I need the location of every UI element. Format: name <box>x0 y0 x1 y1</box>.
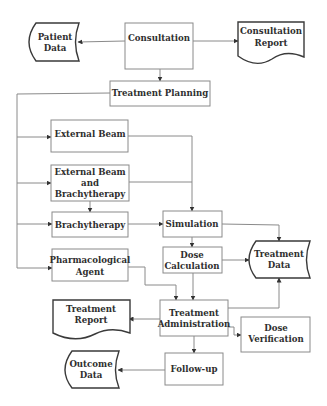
node-label: Agent <box>75 267 104 277</box>
node-label: Treatment <box>169 308 219 318</box>
node-patient-data: Patient Data <box>29 23 79 61</box>
node-label: Brachytherapy <box>55 220 127 230</box>
node-label: Consultation <box>128 33 191 43</box>
node-label: Treatment <box>254 249 304 259</box>
node-label: Administration <box>157 319 231 329</box>
node-pharmacological-agent: Pharmacological Agent <box>50 249 132 281</box>
node-label: and <box>81 178 99 188</box>
edge-simulation-treatment-data <box>222 224 279 241</box>
node-label: Consultation <box>240 26 303 36</box>
edge-admin-treatment-data <box>228 278 279 308</box>
node-treatment-administration: Treatment Administration <box>157 300 231 336</box>
node-label: External Beam <box>54 167 125 177</box>
node-label: Follow-up <box>171 364 218 374</box>
node-label: Data <box>268 260 291 270</box>
node-label: Patient <box>38 32 73 42</box>
node-label: Verification <box>247 334 304 344</box>
node-simulation: Simulation <box>163 211 222 237</box>
node-label: Simulation <box>166 219 220 229</box>
node-external-beam-brachy: External Beam and Brachytherapy <box>51 165 129 201</box>
node-treatment-report: Treatment Report <box>53 300 130 339</box>
node-label: Report <box>75 315 108 325</box>
node-consultation-report: Consultation Report <box>238 22 304 63</box>
node-brachytherapy: Brachytherapy <box>52 212 128 237</box>
flowchart: Patient Data Consultation Consultation R… <box>0 0 327 406</box>
node-label: Treatment Planning <box>112 88 208 98</box>
node-external-beam: External Beam <box>51 120 128 152</box>
node-consultation: Consultation <box>125 23 193 69</box>
node-label: Report <box>255 38 288 48</box>
node-treatment-planning: Treatment Planning <box>110 81 210 106</box>
edge-external-beam-simulation <box>128 136 192 211</box>
node-label: Pharmacological <box>50 255 132 265</box>
node-label: Treatment <box>66 304 116 314</box>
node-label: Dose <box>180 250 204 260</box>
node-dose-verification: Dose Verification <box>241 317 310 352</box>
node-label: Outcome <box>69 359 113 369</box>
node-dose-calculation: Dose Calculation <box>163 247 222 273</box>
node-label: Calculation <box>164 261 220 271</box>
edge-consultation-patient-data <box>78 41 125 42</box>
node-label: Data <box>80 370 103 380</box>
node-label: Data <box>44 43 67 53</box>
node-label: Dose <box>264 323 288 333</box>
node-treatment-data: Treatment Data <box>249 241 310 278</box>
node-follow-up: Follow-up <box>165 353 223 385</box>
node-label: External Beam <box>54 129 125 139</box>
node-label: Brachytherapy <box>55 189 127 199</box>
node-outcome-data: Outcome Data <box>65 351 119 388</box>
